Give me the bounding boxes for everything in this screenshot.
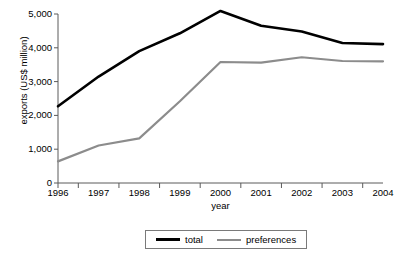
legend-label: total (185, 235, 203, 245)
legend-item: preferences (217, 235, 296, 245)
series-line-total (58, 11, 383, 106)
x-tick-label: 2004 (363, 187, 398, 199)
legend-line-swatch (217, 239, 241, 241)
legend-label: preferences (246, 235, 296, 245)
x-tick-label: 2003 (322, 187, 362, 199)
y-tick-label: 3,000 (6, 77, 52, 87)
y-axis-tick-labels: 01,0002,0003,0004,0005,000 (0, 0, 52, 200)
x-axis-title: year (58, 200, 383, 211)
y-tick-label: 4,000 (6, 43, 52, 53)
y-tick-label: 2,000 (6, 110, 52, 120)
chart-legend: totalpreferences (145, 230, 307, 249)
x-tick-label: 1998 (119, 187, 159, 199)
y-tick-label: 5,000 (6, 9, 52, 19)
x-tick-label: 2002 (282, 187, 322, 199)
x-tick-label: 2000 (201, 187, 241, 199)
legend-item: total (156, 235, 203, 245)
chart-title-fragment (95, 0, 295, 2)
x-tick-label: 1997 (79, 187, 119, 199)
legend-line-swatch (156, 238, 180, 241)
x-tick-label: 1996 (38, 187, 78, 199)
x-axis-tick-labels: 199619971998199920002001200220032004 (58, 187, 383, 201)
x-tick-label: 2001 (241, 187, 281, 199)
y-tick-label: 1,000 (6, 144, 52, 154)
x-tick-label: 1999 (160, 187, 200, 199)
